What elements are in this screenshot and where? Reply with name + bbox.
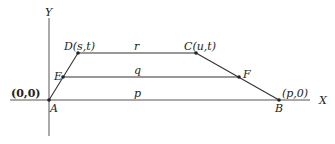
trapezoid-diagram: Y X (0,0) A B (p,0) D(s,t) C(u,t) E F r …: [0, 0, 335, 144]
label-D: D(s,t): [63, 40, 95, 53]
label-C: C(u,t): [184, 40, 216, 53]
label-E: E: [53, 70, 62, 83]
label-p: p: [134, 87, 141, 100]
label-r: r: [134, 40, 140, 53]
label-B: B: [274, 102, 283, 115]
origin-label: (0,0): [11, 87, 41, 100]
x-axis-label: X: [318, 94, 328, 107]
label-A: A: [49, 102, 58, 115]
y-axis-label: Y: [45, 6, 54, 19]
point-F: [237, 75, 241, 79]
label-q: q: [134, 64, 141, 77]
label-B-coord: (p,0): [282, 87, 308, 100]
label-F: F: [242, 68, 251, 81]
